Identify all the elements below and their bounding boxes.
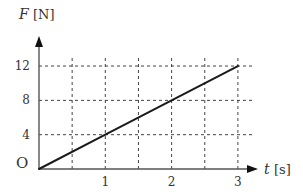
x-axis-unit: [s] [274,162,291,177]
y-tick-label: 4 [22,128,30,142]
origin-label: O [16,154,28,172]
x-axis-variable: t [264,161,270,177]
x-tick-label: 1 [101,175,109,189]
data-series [39,66,238,169]
y-tick-label: 12 [15,59,30,73]
y-axis-variable: F [18,6,30,22]
y-tick-label: 8 [22,93,30,107]
x-axis-label: t [s] [264,161,291,177]
axes [35,36,258,173]
force-time-chart: 1234812 O F [N] t [s] [0,0,303,192]
y-axis-arrow-icon [35,36,43,47]
x-tick-label: 2 [168,175,176,189]
x-tick-label: 3 [234,175,242,189]
data-line [39,66,238,169]
x-axis-arrow-icon [247,165,258,173]
y-axis-label: F [N] [18,6,55,22]
y-axis-unit: [N] [33,7,55,22]
